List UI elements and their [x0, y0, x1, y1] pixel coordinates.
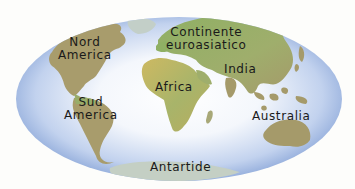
label-eurasia: Continente euroasiatico [166, 26, 246, 52]
label-south-america: Sud America [64, 96, 118, 122]
label-north-america: Nord America [58, 36, 112, 62]
label-australia: Australia [252, 110, 310, 123]
label-africa: Africa [155, 81, 193, 94]
label-india: India [224, 63, 256, 76]
label-north-america-line2: America [58, 49, 112, 62]
label-south-america-line2: America [64, 109, 118, 122]
label-eurasia-line2: euroasiatico [166, 39, 246, 52]
label-antarctica: Antartide [150, 161, 211, 174]
